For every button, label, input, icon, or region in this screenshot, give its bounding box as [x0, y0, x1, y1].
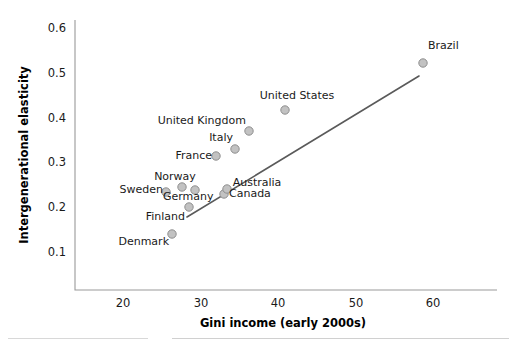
data-point-france[interactable]: [212, 152, 220, 160]
data-point-finland[interactable]: [185, 203, 193, 211]
y-tick-label: 0.1: [48, 245, 66, 259]
scatter-plot: 0.6 0.5 0.4 0.3 0.2 0.1 20 30 40 50 60 G…: [0, 0, 517, 349]
y-tick-label: 0.2: [48, 200, 66, 214]
point-label-sweden: Sweden: [120, 183, 163, 196]
x-tick-label: 30: [194, 296, 209, 310]
point-label-germany: Germany: [163, 190, 214, 203]
data-point-united-kingdom[interactable]: [245, 127, 253, 135]
point-label-canada: Canada: [229, 187, 271, 200]
y-tick-label: 0.6: [48, 21, 66, 35]
footer-divider-right: [172, 338, 509, 339]
data-point-brazil[interactable]: [419, 59, 427, 67]
y-axis-title: Intergenerational elasticity: [17, 66, 31, 244]
footer-divider-left: [8, 338, 148, 339]
point-label-united-states: United States: [260, 89, 335, 102]
y-tick-label: 0.4: [48, 111, 66, 125]
point-label-brazil: Brazil: [428, 39, 459, 52]
point-label-finland: Finland: [146, 210, 185, 223]
chart-figure: 0.6 0.5 0.4 0.3 0.2 0.1 20 30 40 50 60 G…: [0, 0, 517, 349]
y-tick-label: 0.3: [48, 155, 66, 169]
plot-axes: [75, 20, 497, 290]
x-tick-label: 40: [271, 296, 286, 310]
data-point-united-states[interactable]: [281, 106, 289, 114]
data-point-italy[interactable]: [231, 145, 239, 153]
x-tick-label: 60: [426, 296, 441, 310]
point-label-norway: Norway: [154, 170, 196, 183]
point-label-italy: Italy: [209, 131, 233, 144]
x-axis-title: Gini income (early 2000s): [200, 316, 366, 330]
x-tick-label: 50: [349, 296, 364, 310]
point-label-france: France: [175, 149, 212, 162]
point-label-denmark: Denmark: [118, 235, 169, 248]
x-tick-label: 20: [116, 296, 131, 310]
y-tick-label: 0.5: [48, 66, 66, 80]
data-point-denmark[interactable]: [168, 230, 176, 238]
point-label-united-kingdom: United Kingdom: [158, 114, 246, 127]
